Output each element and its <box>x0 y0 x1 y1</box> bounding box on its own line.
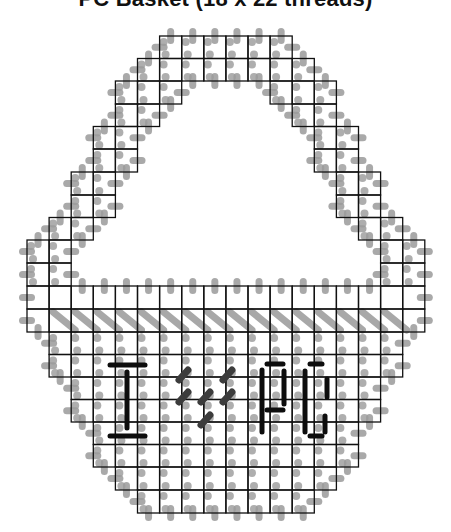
stitch <box>294 96 302 104</box>
stitch <box>292 334 300 342</box>
stitch <box>51 278 59 286</box>
diagonal-stitch <box>318 312 340 330</box>
stitch <box>117 392 125 400</box>
stitch <box>73 232 81 240</box>
stitch <box>182 469 190 477</box>
stitch <box>140 414 148 422</box>
stitch <box>359 197 367 205</box>
stitch <box>248 357 256 365</box>
stitch <box>182 447 190 455</box>
stitch <box>361 232 369 240</box>
stitch <box>138 469 146 477</box>
stitch <box>162 347 170 355</box>
stitch <box>381 242 389 250</box>
stitch <box>115 447 123 455</box>
stitch <box>184 437 192 445</box>
diagonal-stitch <box>385 312 407 330</box>
stitch <box>226 38 234 46</box>
stitch <box>314 424 322 432</box>
stitch <box>162 51 170 59</box>
stitch <box>294 505 302 513</box>
diagonal-stitch <box>119 312 141 330</box>
stitch <box>73 187 81 195</box>
stitch <box>314 334 322 342</box>
stitch <box>93 447 101 455</box>
stitch <box>292 357 300 365</box>
stitch <box>182 424 190 432</box>
stitch <box>272 369 280 377</box>
stitch <box>95 369 103 377</box>
stitch <box>336 402 344 410</box>
stitch <box>160 402 168 410</box>
stitch <box>250 437 258 445</box>
stitch <box>95 210 103 218</box>
stitch <box>184 73 192 81</box>
stitch <box>73 369 81 377</box>
stitch <box>336 447 344 455</box>
diagonal-stitch <box>208 312 230 330</box>
stitch <box>95 164 103 172</box>
stitch <box>359 174 367 182</box>
stitch <box>117 347 125 355</box>
stitch <box>270 447 278 455</box>
stitch <box>27 265 35 273</box>
stitch <box>182 334 190 342</box>
stitch <box>162 369 170 377</box>
stitch <box>294 369 302 377</box>
stitch <box>403 242 411 250</box>
stitch <box>71 357 79 365</box>
stitch <box>117 96 125 104</box>
stitch <box>316 164 324 172</box>
stitch <box>140 505 148 513</box>
stitch <box>204 357 212 365</box>
grid-cell <box>49 286 71 309</box>
stitch <box>95 347 103 355</box>
stitch <box>138 402 146 410</box>
stitch <box>51 347 59 355</box>
stitch <box>138 379 146 387</box>
stitch <box>117 369 125 377</box>
stitch <box>248 424 256 432</box>
stitch <box>93 151 101 159</box>
stitch <box>160 83 168 91</box>
stitch <box>115 469 123 477</box>
stitch <box>228 459 236 467</box>
stitch <box>250 505 258 513</box>
stitch <box>93 357 101 365</box>
stitch <box>95 414 103 422</box>
stitch <box>338 392 346 400</box>
stitch <box>228 482 236 490</box>
stitch <box>316 482 324 490</box>
stitch <box>226 447 234 455</box>
stitch <box>29 278 37 286</box>
stitch <box>49 265 57 273</box>
stitch <box>294 119 302 127</box>
stitch <box>316 459 324 467</box>
stitch <box>95 141 103 149</box>
stitch <box>403 265 411 273</box>
stitch <box>361 347 369 355</box>
stitch <box>405 255 413 263</box>
stitch <box>272 392 280 400</box>
stitch <box>272 459 280 467</box>
stitch <box>405 278 413 286</box>
stitch <box>73 392 81 400</box>
stitch <box>292 61 300 69</box>
stitch <box>49 334 57 342</box>
stitch <box>248 402 256 410</box>
stitch <box>361 210 369 218</box>
stitch <box>162 96 170 104</box>
letter-stitch <box>179 392 188 402</box>
stitch <box>294 459 302 467</box>
stitch <box>138 83 146 91</box>
stitch <box>336 379 344 387</box>
stitch <box>383 347 391 355</box>
stitch <box>270 492 278 500</box>
stitch <box>336 357 344 365</box>
stitch <box>51 232 59 240</box>
stitch <box>204 38 212 46</box>
stitch <box>206 505 214 513</box>
stitch <box>162 437 170 445</box>
diagonal-stitch <box>230 312 252 330</box>
stitch <box>51 369 59 377</box>
